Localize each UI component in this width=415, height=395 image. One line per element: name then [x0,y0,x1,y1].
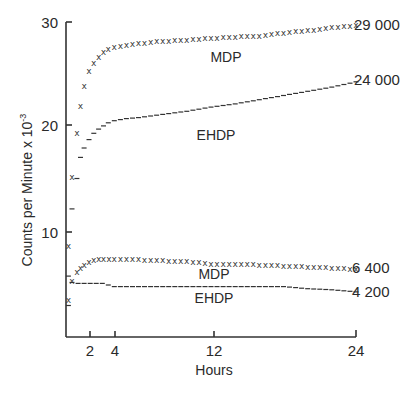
x-tick-4: 4 [111,342,119,359]
data-point-x-marker: x [226,32,232,42]
end-label-29000: 29 000 [354,16,400,33]
data-point-x-marker: x [112,254,118,264]
end-label-24000: 24 000 [354,71,400,88]
label-ehdp-upper: EHDP [197,127,236,143]
data-point-x-marker: x [287,261,293,271]
data-point-x-marker: x [166,256,172,266]
data-point-x-marker: x [142,38,148,48]
end-label-4200: 4 200 [352,283,390,300]
data-point-x-marker: x [69,276,75,286]
data-point-x-marker: x [269,260,275,270]
data-point-x-marker: x [124,254,130,264]
data-point-x-marker: x [66,241,72,251]
data-point-x-marker: x [124,40,130,50]
data-point-x-marker: x [299,26,305,36]
y-axis-title: Counts per Minute x 10-3 [18,114,35,267]
data-point-x-marker: x [214,33,220,43]
y-tick-20: 20 [41,117,58,134]
data-point-x-marker: x [329,22,335,32]
data-point-x-marker: x [112,42,118,52]
data-point-x-marker: x [78,101,84,111]
data-point-x-marker: x [196,34,202,44]
x-tick-12: 12 [206,342,223,359]
x-tick-2: 2 [86,342,94,359]
x-axis-title: Hours [195,362,232,378]
data-point-x-marker: x [299,261,305,271]
data-point-x-marker: x [238,259,244,269]
data-point-x-marker: x [257,260,263,270]
data-point-x-marker: x [74,128,80,138]
data-point-x-marker: x [66,295,72,305]
data-point-x-marker: x [269,29,275,39]
chart: 30 20 10 2 4 12 24 Hours Counts per Minu… [0,0,415,395]
data-point-x-marker: x [257,31,263,41]
data-point-x-marker: x [238,31,244,41]
label-mdp-upper: MDP [210,49,241,65]
data-point-x-marker: x [287,27,293,37]
data-point-x-marker: x [154,36,160,46]
data-point-x-marker: x [341,21,347,31]
data-point-x-marker: x [69,172,75,182]
end-label-6400: 6 400 [352,259,390,276]
data-point-x-marker: x [341,263,347,273]
data-point-x-marker: x [329,263,335,273]
data-point-x-marker: x [184,35,190,45]
data-point-x-marker: x [154,255,160,265]
label-mdp-lower: MDP [198,266,229,282]
data-point-x-marker: x [311,262,317,272]
data-point-x-marker: x [81,81,87,91]
data-point-x-marker: x [166,36,172,46]
y-axis-title-group: Counts per Minute x 10-3 [18,114,35,267]
label-ehdp-lower: EHDP [195,290,234,306]
data-point-x-marker: x [184,256,190,266]
y-tick-10: 10 [41,224,58,241]
data-point-x-marker: x [311,25,317,35]
y-tick-30: 30 [41,14,58,31]
x-tick-24: 24 [348,342,365,359]
data-point-x-marker: x [142,255,148,265]
